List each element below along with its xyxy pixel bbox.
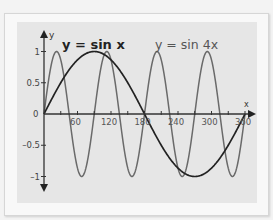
y-axis-label: y: [49, 30, 55, 40]
x-tick-label: 180: [134, 117, 150, 127]
axes: [40, 30, 256, 192]
sin4x-label: y = sin 4x: [155, 37, 218, 52]
y-axis-down-arrow-icon: [40, 184, 48, 192]
x-tick-label: 240: [168, 117, 184, 127]
y-tick-label: 0.5: [26, 78, 40, 88]
plot-area: 6012018024030036010.5–0.5–1 y = sin x y …: [0, 0, 273, 220]
x-tick-label: 60: [70, 117, 81, 127]
y-tick-label: –1: [30, 172, 40, 182]
origin-label: 0: [33, 109, 38, 119]
x-tick-label: 300: [201, 117, 217, 127]
x-tick-label: 360: [235, 117, 251, 127]
x-axis-label: x: [244, 100, 249, 109]
y-tick-label: –0.5: [22, 140, 40, 150]
y-tick-label: 1: [35, 47, 40, 57]
y-axis-up-arrow-icon: [40, 30, 48, 38]
sinx-label: y = sin x: [62, 37, 125, 52]
x-tick-label: 120: [101, 117, 117, 127]
